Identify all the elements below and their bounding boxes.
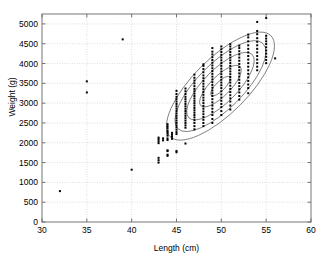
data-point: [193, 77, 195, 79]
y-axis-tick-label: 4000: [19, 59, 38, 69]
data-point: [158, 159, 160, 161]
data-point: [184, 110, 186, 112]
data-point: [202, 68, 204, 70]
data-point: [202, 102, 204, 104]
data-point: [238, 63, 240, 65]
data-point: [184, 103, 186, 105]
y-axis-tick-label: 3000: [19, 98, 38, 108]
data-point: [171, 136, 173, 138]
data-point: [167, 149, 169, 151]
data-point: [171, 134, 173, 136]
data-point: [167, 154, 169, 156]
data-point: [238, 82, 240, 84]
data-point: [167, 135, 169, 137]
data-point: [247, 48, 249, 50]
data-point: [176, 112, 178, 114]
data-point: [247, 84, 249, 86]
x-axis-tick-label: 30: [37, 225, 47, 235]
data-point: [247, 76, 249, 78]
data-point: [193, 116, 195, 118]
x-axis-tick-label: 50: [217, 225, 227, 235]
data-point: [193, 100, 195, 102]
data-point: [211, 76, 213, 78]
y-axis-tick-label: 5000: [19, 19, 38, 29]
data-point: [220, 110, 222, 112]
data-point: [158, 137, 160, 139]
data-point: [171, 132, 173, 134]
data-point: [256, 51, 258, 53]
data-point: [229, 45, 231, 47]
data-point: [211, 73, 213, 75]
y-axis-tick-label: 1000: [19, 177, 38, 187]
data-point: [265, 49, 267, 51]
data-point: [229, 85, 231, 87]
data-point: [238, 76, 240, 78]
data-point: [256, 21, 258, 23]
x-axis-tick-label: 45: [172, 225, 182, 235]
data-point: [220, 114, 222, 116]
data-point: [211, 56, 213, 58]
data-point: [184, 93, 186, 95]
data-point: [176, 150, 178, 152]
data-point: [171, 138, 173, 140]
data-point: [211, 81, 213, 83]
data-point: [211, 47, 213, 49]
data-point: [184, 87, 186, 89]
data-point: [229, 43, 231, 45]
data-point: [202, 94, 204, 96]
data-point: [202, 119, 204, 121]
data-point: [238, 72, 240, 74]
data-point: [193, 105, 195, 107]
data-point: [238, 47, 240, 49]
data-point: [229, 82, 231, 84]
data-point: [274, 57, 276, 59]
data-point: [238, 95, 240, 97]
data-point: [265, 38, 267, 40]
data-point: [202, 83, 204, 85]
y-axis-label: Weight (g): [7, 59, 17, 135]
data-point: [247, 73, 249, 75]
data-point: [211, 70, 213, 72]
data-point: [202, 77, 204, 79]
data-point: [202, 110, 204, 112]
data-point: [220, 48, 222, 50]
data-point: [220, 70, 222, 72]
x-axis-tick-label: 35: [82, 225, 92, 235]
data-point: [176, 120, 178, 122]
data-point: [220, 84, 222, 86]
data-point: [193, 112, 195, 114]
data-point: [211, 65, 213, 67]
y-axis-tick-label: 2500: [19, 118, 38, 128]
data-point: [176, 110, 178, 112]
data-point: [238, 99, 240, 101]
data-point: [211, 108, 213, 110]
data-point: [176, 117, 178, 119]
data-point: [256, 44, 258, 46]
data-point: [229, 51, 231, 53]
data-point: [229, 68, 231, 70]
data-point: [202, 116, 204, 118]
data-point: [229, 97, 231, 99]
y-axis-tick-label: 0: [33, 217, 38, 227]
data-point: [202, 88, 204, 90]
data-point: [265, 62, 267, 64]
data-point: [211, 87, 213, 89]
data-point: [211, 89, 213, 91]
data-point: [229, 70, 231, 72]
data-point: [176, 124, 178, 126]
data-point: [220, 68, 222, 70]
data-point: [184, 143, 186, 145]
data-point: [184, 105, 186, 107]
data-point: [220, 51, 222, 53]
data-point: [211, 59, 213, 61]
data-point: [202, 91, 204, 93]
data-point: [220, 97, 222, 99]
data-point: [176, 129, 178, 131]
data-point: [229, 91, 231, 93]
data-point: [176, 93, 178, 95]
data-point: [193, 102, 195, 104]
data-point: [211, 118, 213, 120]
data-point: [202, 113, 204, 115]
data-point: [202, 74, 204, 76]
data-point: [202, 63, 204, 65]
